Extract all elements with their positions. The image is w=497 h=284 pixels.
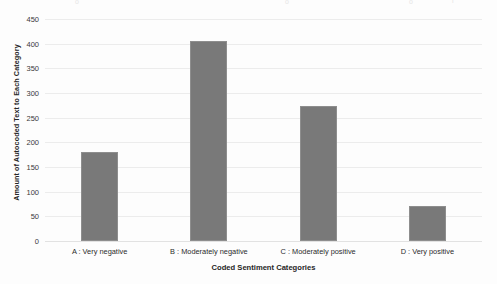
y-axis-tick-label: 150 [26,163,39,172]
bar-slot [373,19,482,241]
y-axis-tick-label: 300 [26,89,39,98]
bar-slot [45,19,154,241]
x-axis-tick-label: B : Moderately negative [154,247,263,256]
x-axis-tick-labels: A : Very negativeB : Moderately negative… [45,247,482,256]
bar-chart: Amount of Autocoded Text to Each Categor… [0,0,497,284]
y-axis-title: Amount of Autocoded Text to Each Categor… [9,0,23,244]
y-axis-tick-label: 200 [26,138,39,147]
y-axis-tick-label: 0 [35,237,39,246]
y-axis-title-text: Amount of Autocoded Text to Each Categor… [12,44,21,201]
plot-area: 050100150200250300350400450 [45,19,482,241]
y-axis-tick-label: 350 [26,64,39,73]
bar[interactable] [190,41,227,241]
x-axis-title: Coded Sentiment Categories [45,263,482,272]
x-axis-tick-label: D : Very positive [373,247,482,256]
y-axis-tick-label: 400 [26,39,39,48]
bars-group [45,19,482,241]
y-axis-tick-label: 50 [31,212,39,221]
bar[interactable] [409,206,446,241]
bar[interactable] [81,152,118,241]
axis-baseline: 0 [45,241,482,242]
bar[interactable] [300,106,337,241]
bar-slot [154,19,263,241]
x-axis-tick-label: A : Very negative [45,247,154,256]
bar-slot [264,19,373,241]
x-axis-tick-label: C : Moderately positive [264,247,373,256]
y-axis-tick-label: 100 [26,187,39,196]
y-axis-tick-label: 450 [26,15,39,24]
y-axis-tick-label: 250 [26,113,39,122]
